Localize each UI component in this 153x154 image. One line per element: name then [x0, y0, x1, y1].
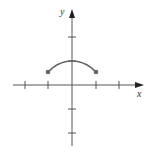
- x-axis-label: x: [137, 89, 141, 99]
- right-endpoint-dot: [94, 70, 99, 75]
- y-axis-arrow-icon: [69, 9, 75, 18]
- y-axis-label: y: [60, 7, 64, 17]
- left-endpoint-dot: [46, 70, 51, 75]
- function-graph: [0, 0, 153, 154]
